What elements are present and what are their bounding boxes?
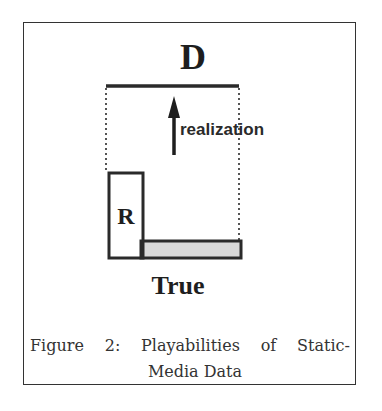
label-true: True — [152, 271, 205, 300]
label-r: R — [117, 203, 135, 229]
caption-word: Figure — [30, 333, 84, 359]
caption-word: Static- — [297, 333, 350, 359]
realization-label: realization — [180, 120, 264, 139]
caption-word: 2: — [105, 333, 121, 359]
caption-line-1: Figure 2: Playabilities of Static- — [30, 333, 352, 359]
caption-line-2: Media Data — [38, 359, 352, 385]
caption-word: Playabilities — [141, 333, 240, 359]
caption-word: of — [261, 333, 277, 359]
label-d: D — [180, 37, 206, 77]
figure-caption: Figure 2: Playabilities of Static- Media… — [30, 333, 352, 385]
shaded-true-bar — [141, 241, 241, 258]
arrow-up-icon — [168, 96, 180, 155]
